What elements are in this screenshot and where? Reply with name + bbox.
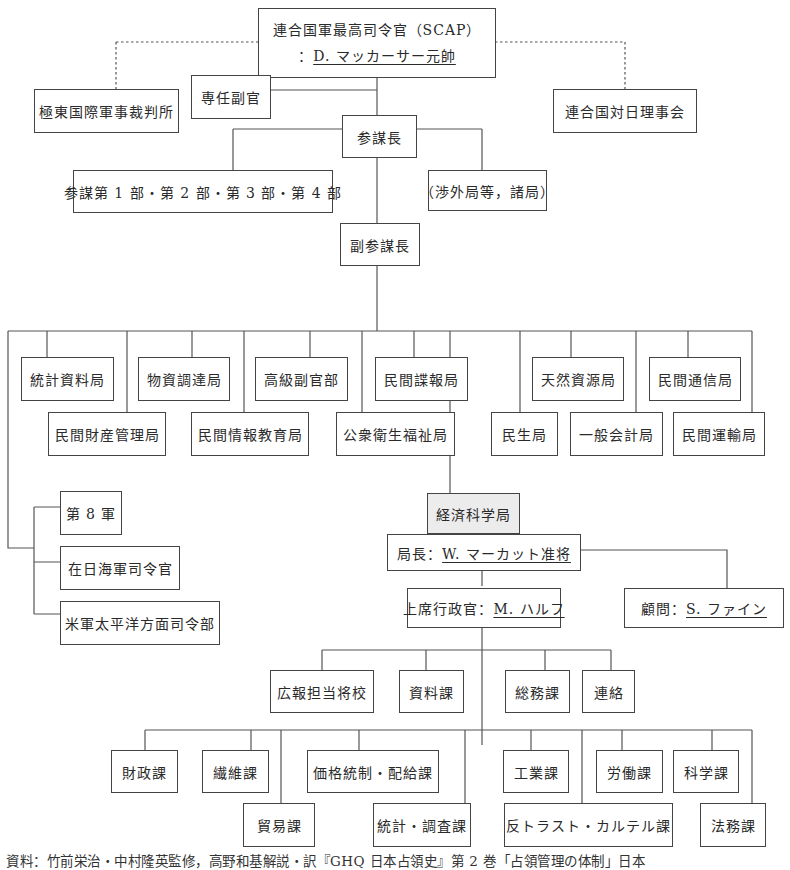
staff-research: 資料課 [399, 670, 464, 713]
bureau-natural-resources: 天然資源局 [532, 357, 624, 401]
esb-advisor-box: 顧問：S. ファイン [624, 588, 784, 628]
bureau-general-accounting: 一般会計局 [570, 412, 663, 456]
staff-pr-officer: 広報担当将校 [270, 670, 374, 713]
division-statistics-research: 統計・調査課 [373, 803, 471, 847]
bureau-civil-intelligence: 民間諜報局 [375, 357, 468, 401]
allied-council-box: 連合国対日理事会 [553, 89, 697, 133]
marquat-name: W. マーカット准将 [442, 543, 571, 563]
bureau-civil-communications: 民間通信局 [649, 357, 741, 401]
deputy-chief-box: 副参謀長 [340, 223, 420, 266]
esb-exec-box: 上席行政官：M. ハルフ [407, 588, 561, 628]
halff-name: M. ハルフ [493, 598, 564, 618]
esb-chief-box: 局長：W. マーカット准将 [387, 534, 581, 571]
division-industry: 工業課 [503, 750, 569, 793]
military-naval-commander: 在日海軍司令官 [60, 546, 180, 590]
staff-liaison: 連絡 [582, 670, 635, 713]
division-labor: 労働課 [596, 750, 663, 793]
military-eighth-army: 第 8 軍 [60, 491, 122, 535]
bureau-public-health: 公衆衛生福祉局 [336, 412, 455, 456]
bureau-statistics: 統計資料局 [21, 357, 114, 401]
staff-sections-box: 参謀第 1 部・第 2 部・第 3 部・第 4 部 [73, 170, 333, 213]
bureau-civil-property: 民間財産管理局 [48, 412, 166, 456]
source-footnote: 資料：竹前栄治・中村隆英監修，高野和基解説・訳『GHQ 日本占領史』第 2 巻「… [6, 850, 645, 870]
bureau-civil-transport: 民間運輸局 [673, 412, 765, 456]
macarthur-name: D. マッカーサー元帥 [313, 48, 456, 64]
bureau-procurement: 物資調達局 [138, 357, 230, 401]
fine-name: S. ファイン [686, 598, 767, 618]
scap-commander: ：D. マッカーサー元帥 [298, 43, 456, 69]
division-trade: 貿易課 [243, 803, 315, 847]
division-antitrust: 反トラスト・カルテル課 [504, 803, 673, 847]
military-afpac: 米軍太平洋方面司令部 [60, 601, 220, 645]
division-legal: 法務課 [700, 803, 766, 847]
esb-name-box: 経済科学局 [427, 493, 520, 534]
bureau-government: 民生局 [491, 412, 558, 456]
scap-box: 連合国軍最高司令官（SCAP） ：D. マッカーサー元帥 [258, 8, 496, 78]
division-price-control: 価格統制・配給課 [307, 750, 439, 793]
scap-title: 連合国軍最高司令官（SCAP） [273, 17, 482, 43]
staff-general-affairs: 総務課 [505, 670, 570, 713]
other-bureaus-box: （渉外局等，諸局） [428, 170, 547, 211]
division-finance: 財政課 [111, 750, 178, 793]
special-adjutant-box: 専任副官 [191, 75, 271, 119]
bureau-adjutant-general: 高級副官部 [255, 357, 348, 401]
chief-of-staff-box: 参謀長 [342, 115, 417, 158]
division-textile: 繊維課 [202, 750, 269, 793]
bureau-civil-info-education: 民間情報教育局 [191, 412, 309, 456]
imtfe-box: 極東国際軍事裁判所 [34, 89, 179, 133]
division-science: 科学課 [673, 750, 739, 793]
